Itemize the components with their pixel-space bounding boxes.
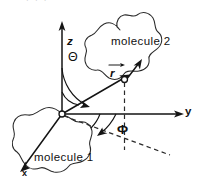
top-cropped-text-fragment: · · · bbox=[26, 0, 48, 5]
phi-angle-label: Φ bbox=[117, 123, 128, 137]
y-axis-label: y bbox=[185, 106, 191, 118]
x-axis-label: x bbox=[22, 169, 27, 178]
theta-angle-label: Θ bbox=[68, 51, 78, 64]
theta-angle-arc bbox=[62, 68, 86, 105]
molecule-2-label: molecule 2 bbox=[111, 36, 171, 48]
coordinate-diagram-svg bbox=[0, 0, 198, 187]
z-axis-label: z bbox=[67, 36, 73, 48]
molecule-2-center-point bbox=[122, 77, 128, 83]
phi-inner-arc bbox=[91, 114, 100, 128]
molecule-1-label: molecule 1 bbox=[34, 152, 94, 164]
r-vector-label: r bbox=[110, 68, 114, 80]
figure-container: · · · molecule 2 molecule 1 z y x Θ Φ r bbox=[0, 0, 198, 187]
r-vector-line bbox=[62, 78, 124, 114]
